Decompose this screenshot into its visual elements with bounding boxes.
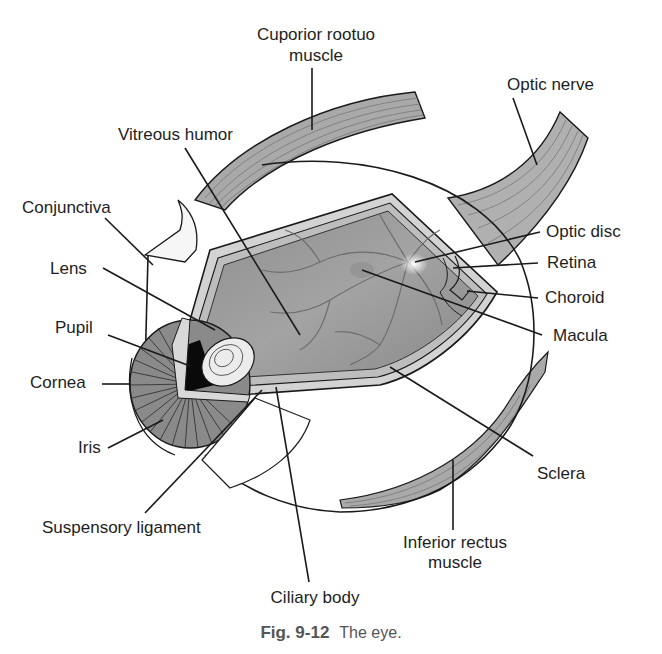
- label-lens: Lens: [50, 259, 87, 278]
- caption-number: Fig. 9-12: [260, 623, 329, 642]
- label-superior-rectus: Cuporior rootuo: [257, 25, 375, 44]
- label-choroid: Choroid: [545, 288, 605, 307]
- label-iris: Iris: [78, 438, 101, 457]
- superior-rectus-muscle: [195, 92, 425, 210]
- label-vitreous-humor: Vitreous humor: [118, 125, 233, 144]
- optic-nerve: [448, 112, 588, 265]
- optic-disc-glow: [400, 253, 428, 275]
- label-inferior-rectus-line2: muscle: [428, 553, 482, 572]
- label-ciliary-body: Ciliary body: [271, 588, 360, 607]
- label-retina: Retina: [547, 253, 597, 272]
- label-inferior-rectus: Inferior rectus: [403, 533, 507, 552]
- label-cornea: Cornea: [30, 373, 86, 392]
- label-macula: Macula: [553, 326, 608, 345]
- caption-text: The eye.: [339, 624, 401, 641]
- eye-diagram: Cuporior rootuo muscle Optic nerve Vitre…: [0, 0, 662, 654]
- label-optic-nerve: Optic nerve: [507, 75, 594, 94]
- label-optic-disc: Optic disc: [546, 222, 621, 241]
- label-pupil: Pupil: [55, 318, 93, 337]
- label-suspensory-ligament: Suspensory ligament: [42, 518, 201, 537]
- figure-caption: Fig. 9-12 The eye.: [260, 623, 401, 642]
- conjunctiva-shape: [145, 200, 197, 262]
- label-superior-rectus-line2: muscle: [289, 46, 343, 65]
- label-conjunctiva: Conjunctiva: [22, 198, 111, 217]
- label-sclera: Sclera: [537, 464, 586, 483]
